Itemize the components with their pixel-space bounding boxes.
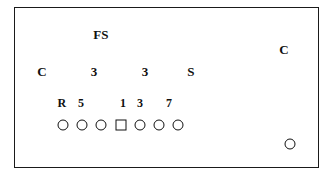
label-corner-right: C <box>279 43 289 56</box>
player-center <box>116 120 127 131</box>
label-technique-3-right: 3 <box>142 65 149 78</box>
player-lineman-6 <box>173 120 184 131</box>
label-strong-safety: S <box>187 65 194 78</box>
label-gap-3: 3 <box>137 97 143 109</box>
label-gap-r: R <box>58 97 67 109</box>
player-lineman-4 <box>135 120 146 131</box>
label-gap-1: 1 <box>120 97 126 109</box>
label-gap-5: 5 <box>78 97 84 109</box>
player-split-receiver <box>285 139 296 150</box>
label-free-safety: FS <box>93 28 109 41</box>
label-gap-7: 7 <box>166 97 172 109</box>
diagram-canvas: FS C 3 3 S C R 5 1 3 7 <box>0 0 332 176</box>
player-lineman-2 <box>77 120 88 131</box>
label-technique-3-left: 3 <box>91 65 98 78</box>
label-corner-left: C <box>37 65 47 78</box>
diagram-frame: FS C 3 3 S C R 5 1 3 7 <box>14 7 319 168</box>
player-lineman-3 <box>96 120 107 131</box>
player-lineman-5 <box>154 120 165 131</box>
player-lineman-1 <box>58 120 69 131</box>
